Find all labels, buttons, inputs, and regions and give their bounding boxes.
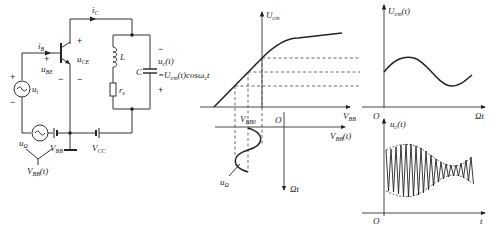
output-plus-sign: +: [158, 85, 163, 95]
uce-label: uCE: [77, 54, 90, 65]
am-carrier-waveform: [386, 144, 474, 197]
omega-t-axis-label: Ωt: [290, 184, 300, 194]
circuit: iC iB + uBE − + uCE − + − ui: [10, 5, 210, 177]
vcc-label: VCC: [92, 143, 107, 154]
ucm-axis-label: Ucm: [266, 10, 280, 21]
uce-plus-sign: +: [77, 36, 82, 46]
transistor-icon: [61, 42, 70, 64]
output-y-label: uc(t): [390, 119, 406, 130]
output-origin-label: O: [373, 216, 380, 226]
collector-current-label: iC: [92, 5, 100, 16]
transfer-curve: [214, 33, 342, 107]
input-minus-sign: −: [10, 97, 15, 107]
ube-plus-sign: +: [44, 54, 49, 64]
envelope-graph: Ucm(t) O Ωt: [362, 5, 485, 121]
envelope-x-label: Ωt: [475, 111, 485, 121]
output-voltage-label: uc(t): [158, 56, 174, 67]
modulating-signal-label: uΩ: [220, 177, 230, 188]
inductor-icon: [113, 47, 117, 67]
output-minus-sign: −: [158, 44, 163, 54]
input-source-label: ui: [32, 84, 39, 95]
modulating-source-label: uΩ: [19, 138, 29, 149]
sine-glyph-icon: [17, 87, 27, 91]
vbb-battery-icon: [54, 128, 57, 138]
input-plus-sign: +: [10, 72, 15, 82]
uce-minus-sign: −: [77, 74, 82, 84]
envelope-curve: [384, 57, 472, 86]
ube-label: uBE: [41, 64, 53, 75]
resistor-icon: [110, 83, 116, 96]
base-modulation-diagram: iC iB + uBE − + uCE − + − ui: [0, 0, 499, 229]
origin-label: O: [275, 115, 282, 125]
transfer-characteristic-graph: Ucm VBB VBB0 O VBB(t) Ωt uΩ: [200, 10, 360, 194]
envelope-y-label: Ucm(t): [388, 6, 410, 17]
output-formula: =Ucm(t)cosωct: [158, 70, 210, 81]
vbb-label: VBB: [50, 143, 63, 154]
ube-minus-sign: −: [58, 74, 63, 84]
vbb0-label: VBB0: [240, 114, 256, 125]
vbbt-axis-label: VBB(t): [330, 131, 351, 142]
base-current-label: iB: [38, 41, 45, 52]
output-x-label: t: [480, 216, 483, 226]
bias-brace: [26, 149, 52, 159]
vbb-axis-label: VBB: [343, 111, 356, 122]
vcc-battery-icon: [96, 128, 99, 138]
collector-current-arrow-icon: [90, 17, 96, 22]
combined-bias-label: VBB(t): [27, 166, 48, 177]
inductor-label: L: [119, 52, 125, 62]
am-output-graph: uc(t) O t: [362, 119, 485, 226]
resistor-label: re: [119, 85, 126, 96]
capacitor-label: C: [136, 67, 143, 77]
envelope-origin-label: O: [373, 111, 380, 121]
